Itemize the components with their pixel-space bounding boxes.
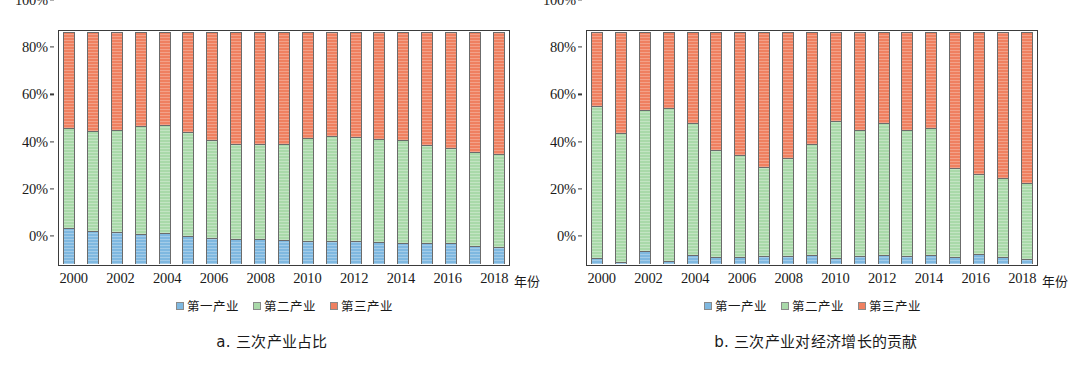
stacked-bar[interactable] (734, 32, 746, 264)
bar-segment-series-3 (710, 32, 722, 150)
chart-panel-a: 0%20%40%60%80%100% 年份 200020022004200620… (0, 0, 544, 379)
bar-segment-series-2 (159, 125, 171, 233)
bar-segment-series-1 (663, 261, 675, 264)
bar-segment-series-1 (830, 258, 842, 264)
stacked-bar[interactable] (591, 32, 603, 264)
x-axis-tick-label: 2006 (728, 270, 756, 287)
stacked-bar[interactable] (1021, 32, 1033, 264)
legend-a: 第一产业第二产业第三产业 (58, 296, 510, 315)
bar-segment-series-1 (469, 246, 481, 264)
bar-segment-series-3 (973, 32, 985, 174)
x-axis-tick-label: 2014 (915, 270, 943, 287)
bar-segment-series-2 (445, 148, 457, 243)
stacked-bar[interactable] (973, 32, 985, 264)
stacked-bar[interactable] (182, 32, 194, 264)
bar-segment-series-3 (854, 32, 866, 130)
stacked-bar[interactable] (373, 32, 385, 264)
stacked-bar[interactable] (806, 32, 818, 264)
stacked-bar[interactable] (302, 32, 314, 264)
stacked-bar[interactable] (949, 32, 961, 264)
stacked-bar[interactable] (469, 32, 481, 264)
legend-item[interactable]: 第一产业 (176, 296, 239, 315)
bar-segment-series-3 (493, 32, 505, 154)
x-axis-tick-label: 2012 (868, 270, 896, 287)
y-axis-tick-label: 80% (550, 39, 576, 56)
stacked-bar[interactable] (493, 32, 505, 264)
stacked-bar[interactable] (615, 32, 627, 264)
bar-segment-series-2 (135, 126, 147, 235)
bar-segment-series-1 (734, 257, 746, 264)
stacked-bar[interactable] (278, 32, 290, 264)
stacked-bar[interactable] (135, 32, 147, 264)
bar-segment-series-1 (591, 258, 603, 264)
stacked-bar[interactable] (63, 32, 75, 264)
x-axis-tick-label: 2000 (60, 270, 88, 287)
legend-item[interactable]: 第三产业 (330, 296, 393, 315)
plot-wrap-b: 年份 2000200220042006200820102012201420162… (586, 30, 1038, 266)
bar-segment-series-2 (710, 150, 722, 256)
y-axis-tick-mark (50, 94, 54, 95)
stacked-bar[interactable] (878, 32, 890, 264)
x-axis-tick-label: 2004 (153, 270, 181, 287)
stacked-bar[interactable] (111, 32, 123, 264)
legend-item[interactable]: 第三产业 (858, 296, 921, 315)
stacked-bar[interactable] (901, 32, 913, 264)
stacked-bar[interactable] (639, 32, 651, 264)
stacked-bar[interactable] (445, 32, 457, 264)
bar-segment-series-2 (639, 110, 651, 251)
y-axis-tick-label: 100% (543, 0, 576, 9)
legend-label: 第二产业 (792, 296, 844, 315)
bar-segment-series-2 (302, 138, 314, 241)
bar-segment-series-2 (206, 140, 218, 238)
stacked-bar[interactable] (230, 32, 242, 264)
y-axis-tick-mark (50, 188, 54, 189)
stacked-bar[interactable] (254, 32, 266, 264)
bar-segment-series-3 (806, 32, 818, 144)
stacked-bar[interactable] (350, 32, 362, 264)
stacked-bar[interactable] (326, 32, 338, 264)
bar-segment-series-1 (493, 247, 505, 264)
plot-wrap-a: 年份 2000200220042006200820102012201420162… (58, 30, 510, 266)
bar-segment-series-3 (350, 32, 362, 137)
stacked-bar[interactable] (854, 32, 866, 264)
bar-segment-series-1 (949, 257, 961, 264)
bar-segment-series-3 (445, 32, 457, 148)
stacked-bar[interactable] (830, 32, 842, 264)
stacked-bar[interactable] (663, 32, 675, 264)
stacked-bar[interactable] (710, 32, 722, 264)
stacked-bar[interactable] (421, 32, 433, 264)
legend-item[interactable]: 第一产业 (704, 296, 767, 315)
stacked-bar[interactable] (206, 32, 218, 264)
y-axis-b: 0%20%40%60%80%100% (530, 0, 582, 236)
legend-item[interactable]: 第二产业 (781, 296, 844, 315)
y-axis-tick-mark (578, 188, 582, 189)
stacked-bar[interactable] (925, 32, 937, 264)
legend-swatch-icon (176, 302, 184, 310)
x-axis-tick-label: 2000 (588, 270, 616, 287)
bar-segment-series-2 (901, 130, 913, 256)
x-axis-tick-label: 2016 (433, 270, 461, 287)
bar-segment-series-1 (710, 257, 722, 264)
bar-segment-series-3 (159, 32, 171, 125)
bar-segment-series-2 (254, 144, 266, 239)
bar-segment-series-2 (87, 131, 99, 231)
bar-segment-series-2 (230, 144, 242, 239)
stacked-bar[interactable] (87, 32, 99, 264)
bar-segment-series-1 (206, 238, 218, 264)
x-axis-b: 年份 2000200220042006200820102012201420162… (586, 268, 1038, 292)
bar-segment-series-3 (87, 32, 99, 131)
bar-segment-series-2 (278, 144, 290, 240)
stacked-bar[interactable] (997, 32, 1009, 264)
bar-segment-series-1 (182, 236, 194, 264)
bar-segment-series-3 (397, 32, 409, 140)
legend-item[interactable]: 第二产业 (253, 296, 316, 315)
bar-segment-series-3 (734, 32, 746, 155)
plot-area-a (58, 30, 510, 266)
stacked-bar[interactable] (397, 32, 409, 264)
stacked-bar[interactable] (758, 32, 770, 264)
stacked-bar[interactable] (782, 32, 794, 264)
bar-segment-series-2 (373, 139, 385, 242)
stacked-bar[interactable] (159, 32, 171, 264)
stacked-bar[interactable] (687, 32, 699, 264)
bar-segment-series-2 (663, 108, 675, 262)
